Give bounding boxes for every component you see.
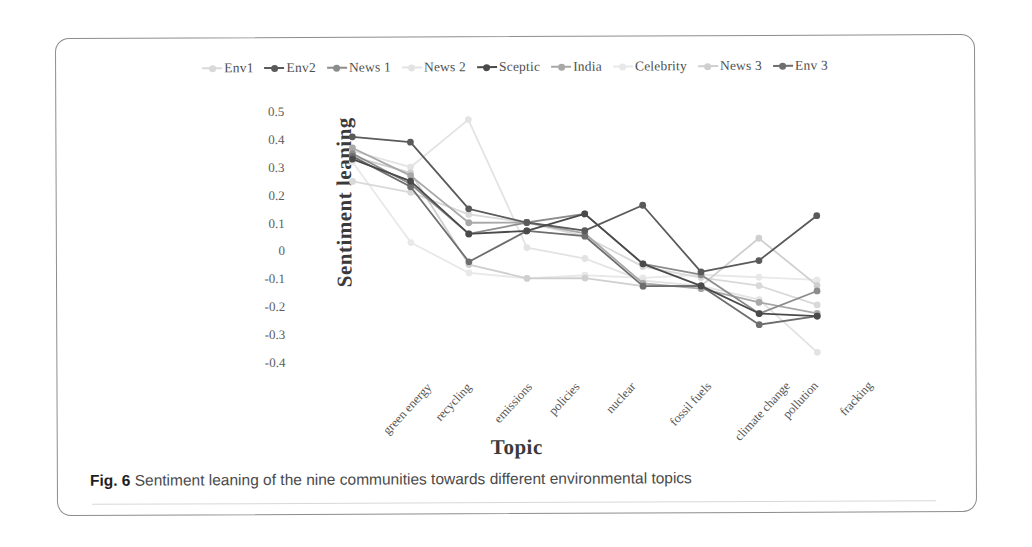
x-tick-label: green energy <box>380 380 435 438</box>
x-tick-label: nuclear <box>603 380 639 417</box>
x-tick-label: emissions <box>491 380 535 426</box>
x-tick-label: recycling <box>432 380 475 424</box>
figure-caption: Fig. 6 Sentiment leaning of the nine com… <box>90 467 952 491</box>
x-tick-label: fossil fuels <box>667 379 715 429</box>
x-tick-label: policies <box>546 380 583 419</box>
x-axis-title: Topic <box>58 433 976 462</box>
figure-frame: Env1Env2News 1News 2ScepticIndiaCelebrit… <box>55 34 977 516</box>
x-tick-label: fracking <box>837 378 876 419</box>
plot-area: Sentiment leaning 0.50.40.30.20.10-0.1-0… <box>56 35 976 515</box>
figure-caption-text: Sentiment leaning of the nine communitie… <box>135 469 692 488</box>
figure-number: Fig. 6 <box>90 472 131 489</box>
